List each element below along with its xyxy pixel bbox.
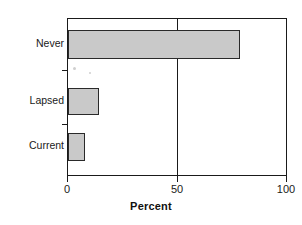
x-axis-tick-100 xyxy=(286,176,287,182)
bar-never xyxy=(68,30,240,59)
scan-speck-b xyxy=(89,72,91,74)
x-axis-tick-0 xyxy=(67,176,68,182)
y-axis-label-lapsed: Lapsed xyxy=(4,95,64,106)
bar-current xyxy=(68,133,85,161)
x-axis-title: Percent xyxy=(0,200,302,212)
bar-lapsed xyxy=(68,88,99,115)
y-axis-label-never: Never xyxy=(4,38,64,49)
x-axis-tick-label-50: 50 xyxy=(157,183,197,195)
scan-speck-a xyxy=(73,67,76,70)
plot-area xyxy=(67,18,287,176)
x-axis-tick-label-0: 0 xyxy=(47,183,87,195)
chart-title-remnant xyxy=(150,0,290,6)
x-axis-tick-50 xyxy=(177,176,178,182)
y-axis-label-current: Current xyxy=(4,140,64,151)
x-axis-tick-label-100: 100 xyxy=(266,183,302,195)
bar-chart-figure: Never Lapsed Current 0 50 100 Percent xyxy=(0,0,302,225)
